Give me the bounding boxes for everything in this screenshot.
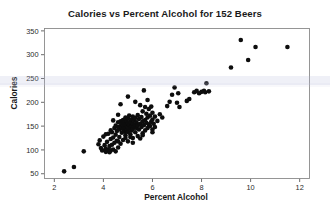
data-point — [81, 149, 86, 154]
data-point — [111, 118, 116, 123]
tick-marks — [41, 31, 300, 182]
data-point — [62, 169, 67, 174]
data-point — [187, 97, 192, 102]
data-point — [285, 45, 290, 50]
scatter-plot-figure: Calories vs Percent Alcohol for 152 Beer… — [0, 0, 330, 215]
data-point — [133, 130, 138, 135]
y-tick-label: 300 — [26, 50, 38, 59]
data-point — [160, 115, 165, 120]
data-point — [170, 92, 175, 97]
y-tick-label: 100 — [26, 146, 38, 155]
data-point — [118, 102, 123, 107]
data-point — [138, 103, 143, 108]
y-tick-label: 50 — [30, 169, 38, 178]
data-point — [142, 88, 147, 93]
data-point — [150, 130, 155, 135]
data-point — [128, 135, 133, 140]
data-point — [108, 128, 113, 133]
data-point — [116, 112, 121, 117]
data-point — [105, 140, 110, 145]
data-point — [140, 133, 145, 138]
data-point — [113, 149, 118, 154]
x-tick-label: 10 — [246, 183, 254, 192]
data-point — [153, 114, 158, 119]
data-point — [175, 100, 180, 105]
plot-canvas: 50100150200250300350 24681012 — [0, 0, 330, 215]
data-point — [165, 104, 170, 109]
y-tick-label: 350 — [26, 27, 38, 36]
data-point — [149, 104, 154, 109]
data-point — [207, 89, 212, 94]
data-point — [126, 94, 131, 99]
data-point — [145, 98, 150, 103]
x-axis-tick-labels: 24681012 — [52, 183, 304, 192]
x-tick-label: 12 — [296, 183, 304, 192]
data-point — [172, 85, 177, 90]
y-axis-tick-labels: 50100150200250300350 — [26, 27, 38, 179]
x-tick-label: 8 — [199, 183, 203, 192]
data-point — [246, 58, 251, 63]
data-point — [155, 119, 160, 124]
data-point — [153, 125, 158, 130]
data-point — [72, 165, 77, 170]
data-point — [167, 100, 172, 105]
x-tick-label: 4 — [101, 183, 105, 192]
x-tick-label: 6 — [150, 183, 154, 192]
data-point — [150, 110, 155, 115]
data-point — [133, 100, 138, 105]
data-point — [253, 45, 258, 50]
data-point — [117, 135, 122, 140]
data-point — [123, 136, 128, 141]
x-tick-label: 2 — [52, 183, 56, 192]
data-point — [176, 91, 181, 96]
data-points — [62, 38, 290, 174]
data-point — [116, 139, 121, 144]
data-point — [204, 81, 209, 86]
y-tick-label: 250 — [26, 74, 38, 83]
data-point — [116, 145, 121, 150]
y-tick-label: 150 — [26, 122, 38, 131]
data-point — [239, 38, 244, 43]
data-point — [229, 65, 234, 70]
y-tick-label: 200 — [26, 98, 38, 107]
data-point — [139, 115, 144, 120]
data-point — [177, 105, 182, 110]
data-point — [131, 140, 136, 145]
data-point — [97, 138, 102, 143]
data-point — [104, 132, 109, 137]
